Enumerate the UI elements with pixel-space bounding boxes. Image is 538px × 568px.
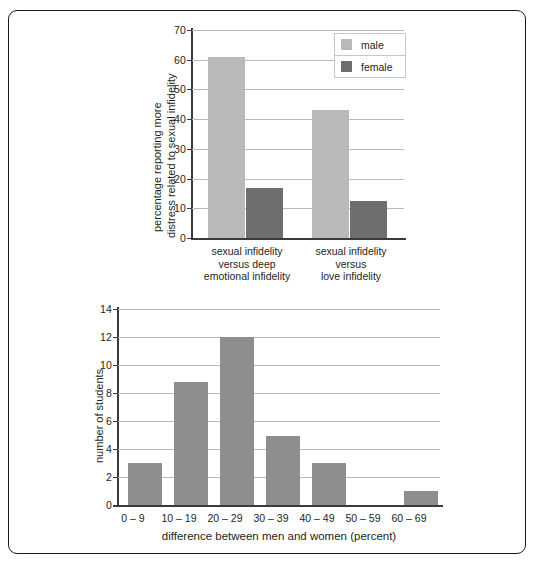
bar-bin-60-69 xyxy=(404,491,438,505)
bottom-gridline-14 xyxy=(118,309,440,310)
bar-bin-40-49 xyxy=(312,463,346,505)
bar-bin-30-39 xyxy=(266,436,300,505)
bar-bin-10-19 xyxy=(174,382,208,505)
bottom-gridline-6 xyxy=(118,421,440,422)
bottom-ytick-6: 6 xyxy=(86,415,112,427)
bar-bin-20-29 xyxy=(220,337,254,505)
bottom-x-axis-line xyxy=(113,505,443,507)
chart-bottom-histogram: number of students 14 12 10 8 6 4 2 0 xyxy=(0,0,538,568)
bottom-plot-area xyxy=(118,309,440,505)
bar-bin-0-9 xyxy=(128,463,162,505)
bottom-ytick-0: 0 xyxy=(86,499,112,511)
bottom-ytick-14: 14 xyxy=(86,303,112,315)
bottom-ytick-2: 2 xyxy=(86,471,112,483)
bottom-ytick-8: 8 xyxy=(86,387,112,399)
bottom-gridline-10 xyxy=(118,365,440,366)
bottom-ytick-4: 4 xyxy=(86,443,112,455)
bottom-ytick-12: 12 xyxy=(86,331,112,343)
bottom-xcat-60-69: 60 – 69 xyxy=(381,512,437,525)
bottom-gridline-12 xyxy=(118,337,440,338)
bottom-ytick-10: 10 xyxy=(86,359,112,371)
figure-page: percentage reporting more distress relat… xyxy=(0,0,538,568)
bottom-xlabel: difference between men and women (percen… xyxy=(118,530,440,542)
bottom-gridline-8 xyxy=(118,393,440,394)
